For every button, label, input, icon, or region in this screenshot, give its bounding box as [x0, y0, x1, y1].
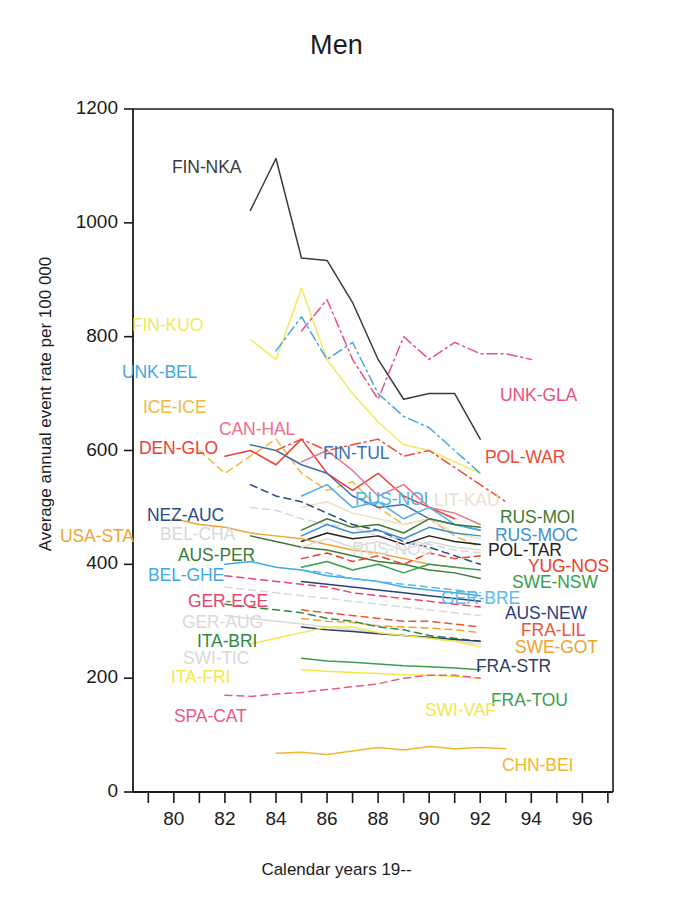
y-tick-label: 200 [48, 666, 118, 688]
series-line [302, 658, 481, 669]
series-label-chn-bei: CHN-BEI [502, 755, 573, 776]
series-label-bel-cha: BEL-CHA [160, 524, 235, 545]
series-label-bel-ghe: BEL-GHE [148, 565, 224, 586]
series-label-swe-got: SWE-GOT [515, 637, 598, 658]
series-label-pol-war: POL-WAR [485, 447, 565, 468]
series-label-fin-tul: FIN-TUL [323, 443, 389, 464]
series-line [276, 746, 506, 754]
x-tick-label: 84 [253, 808, 299, 830]
series-label-ger-ege: GER-EGE [188, 591, 268, 612]
series-label-fra-tou: FRA-TOU [491, 690, 568, 711]
series-label-ger-aug: GER-AUG [182, 612, 263, 633]
series-label-spa-cat: SPA-CAT [174, 706, 247, 727]
y-tick-label: 800 [48, 325, 118, 347]
series-label-lit-kau: LIT-KAU [434, 490, 499, 511]
chart-page: Men Average annual event rate per 100 00… [0, 0, 673, 922]
series-label-den-glo: DEN-GLO [139, 438, 218, 459]
x-tick-label: 88 [355, 808, 401, 830]
series-line [250, 159, 480, 440]
series-label-usa-sta: USA-STA [60, 526, 134, 547]
y-tick-label: 600 [48, 439, 118, 461]
series-label-swi-tic: SWI-TIC [183, 648, 249, 669]
series-label-fra-str: FRA-STR [476, 656, 551, 677]
series-label-unk-gla: UNK-GLA [500, 385, 577, 406]
series-label-nez-auc: NEZ-AUC [147, 505, 224, 526]
x-tick-label: 90 [406, 808, 452, 830]
series-label-can-hal: CAN-HAL [219, 419, 295, 440]
series-label-swe-nsw: SWE-NSW [512, 572, 598, 593]
x-tick-label: 92 [457, 808, 503, 830]
x-tick-label: 82 [202, 808, 248, 830]
y-tick-label: 0 [48, 780, 118, 802]
series-line [225, 675, 480, 696]
series-line [302, 300, 532, 400]
x-tick-label: 96 [559, 808, 605, 830]
y-tick-label: 1200 [48, 97, 118, 119]
x-tick-label: 86 [304, 808, 350, 830]
series-label-fin-nka: FIN-NKA [172, 157, 241, 178]
y-tick-label: 400 [48, 552, 118, 574]
x-tick-label: 94 [508, 808, 554, 830]
series-label-ita-fri: ITA-FRI [171, 667, 230, 688]
series-label-rus-noi: RUS-NOI [355, 489, 428, 510]
series-label-rus-nos: RUS-NOS [352, 539, 432, 560]
x-tick-label: 80 [151, 808, 197, 830]
y-tick-label: 1000 [48, 211, 118, 233]
series-label-unk-bel: UNK-BEL [122, 362, 197, 383]
series-label-ice-ice: ICE-ICE [143, 397, 206, 418]
series-line [302, 670, 481, 679]
series-label-fin-kuo: FIN-KUO [132, 315, 203, 336]
series-label-swi-vaf: SWI-VAF [425, 700, 496, 721]
series-label-aus-per: AUS-PER [178, 545, 255, 566]
